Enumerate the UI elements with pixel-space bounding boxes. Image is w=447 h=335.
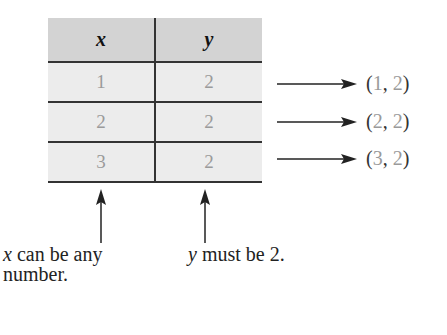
pair-x: 1 [373, 72, 383, 94]
xy-table: x y 1 2 2 2 3 2 [48, 18, 262, 183]
table-row: 1 2 [48, 63, 262, 103]
x-variable: x [3, 243, 12, 265]
header-y: y [156, 18, 262, 61]
table-row: 3 2 [48, 143, 262, 183]
table-header-row: x y [48, 18, 262, 63]
up-arrow-icon [95, 189, 107, 243]
cell-y: 2 [156, 143, 262, 181]
pair-y: 2 [393, 147, 403, 169]
cell-x: 2 [48, 103, 156, 141]
cell-y: 2 [156, 63, 262, 101]
ordered-pair: (1, 2) [366, 72, 409, 95]
y-caption-text: must be 2. [197, 243, 285, 265]
header-x: x [48, 18, 156, 61]
right-arrow-icon [277, 116, 357, 128]
y-variable: y [188, 243, 197, 265]
cell-x: 3 [48, 143, 156, 181]
paren: ( [366, 147, 373, 169]
cell-y: 2 [156, 103, 262, 141]
comma: , [383, 147, 393, 169]
pair-x: 2 [373, 110, 383, 132]
x-caption-line2: number. [3, 263, 68, 285]
cell-x: 1 [48, 63, 156, 101]
x-caption: x can be any number. [3, 244, 102, 284]
x-caption-line1: can be any [12, 243, 103, 265]
pair-y: 2 [393, 72, 403, 94]
paren: ( [366, 110, 373, 132]
ordered-pair: (3, 2) [366, 147, 409, 170]
comma: , [383, 72, 393, 94]
paren: ) [403, 72, 410, 94]
comma: , [383, 110, 393, 132]
up-arrow-icon [199, 189, 211, 243]
ordered-pair: (2, 2) [366, 110, 409, 133]
pair-y: 2 [393, 110, 403, 132]
paren: ( [366, 72, 373, 94]
y-caption: y must be 2. [188, 244, 285, 264]
right-arrow-icon [277, 78, 357, 90]
paren: ) [403, 147, 410, 169]
pair-x: 3 [373, 147, 383, 169]
paren: ) [403, 110, 410, 132]
table-row: 2 2 [48, 103, 262, 143]
right-arrow-icon [277, 153, 357, 165]
